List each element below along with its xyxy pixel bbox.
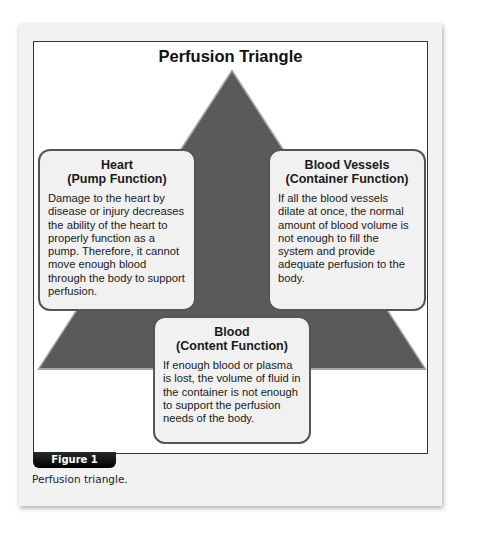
diagram-frame: Perfusion Triangle Heart (Pump Function)… (33, 41, 428, 454)
blood-vessels-heading-line1: Blood Vessels (305, 158, 390, 172)
blood-body: If enough blood or plasma is lost, the v… (163, 359, 301, 425)
heart-body: Damage to the heart by disease or injury… (48, 192, 186, 298)
blood-heading-line1: Blood (214, 325, 249, 339)
heart-heading: Heart (Pump Function) (48, 158, 186, 186)
heart-heading-line2: (Pump Function) (67, 172, 166, 186)
blood-heading-line2: (Content Function) (176, 339, 288, 353)
blood-vessels-heading-line2: (Container Function) (286, 172, 409, 186)
heart-heading-line1: Heart (101, 158, 133, 172)
figure-label: Figure 1 (33, 452, 116, 468)
figure-caption: Perfusion triangle. (32, 473, 128, 485)
blood-box: Blood (Content Function) If enough blood… (153, 316, 311, 444)
blood-vessels-box: Blood Vessels (Container Function) If al… (268, 149, 426, 311)
heart-box: Heart (Pump Function) Damage to the hear… (38, 149, 196, 311)
figure-card: Perfusion Triangle Heart (Pump Function)… (19, 24, 442, 506)
blood-vessels-heading: Blood Vessels (Container Function) (278, 158, 416, 186)
blood-vessels-body: If all the blood vessels dilate at once,… (278, 192, 416, 285)
blood-heading: Blood (Content Function) (163, 325, 301, 353)
